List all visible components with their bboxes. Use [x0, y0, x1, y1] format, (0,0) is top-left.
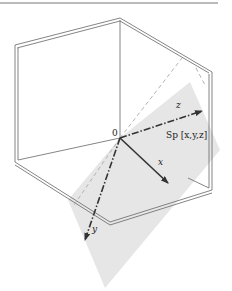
plane-label: Sp [x,y,z]	[166, 130, 207, 140]
origin-label: 0	[112, 128, 118, 138]
z-axis-label: z	[175, 100, 181, 110]
y-axis-label: y	[91, 224, 98, 234]
x-axis-label: x	[158, 157, 163, 167]
coordinate-frame-diagram: 0 z x y Sp [x,y,z]	[0, 0, 232, 291]
